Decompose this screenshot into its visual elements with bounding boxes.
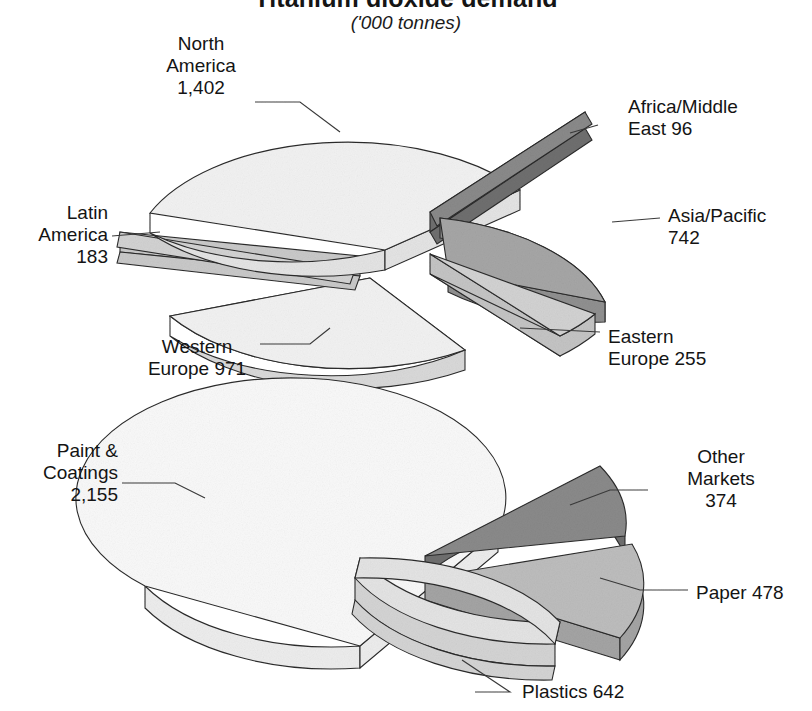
- label-western-europe: Western Europe 971: [132, 336, 262, 380]
- label-plastics: Plastics 642: [522, 681, 682, 703]
- leader-north-america: [255, 102, 340, 132]
- label-asia-pacific: Asia/Pacific 742: [668, 205, 808, 249]
- label-paper: Paper 478: [696, 582, 812, 604]
- chart-canvas: Titanium dioxide demand ('000 tonnes): [0, 0, 812, 711]
- label-africa-middle-east: Africa/Middle East 96: [628, 96, 808, 140]
- leader-asia-pacific: [612, 218, 660, 222]
- pie-end-use: [76, 378, 688, 692]
- label-other-markets: Other Markets 374: [656, 446, 786, 512]
- label-north-america: North America 1,402: [146, 33, 256, 99]
- label-paint-coatings: Paint & Coatings 2,155: [6, 440, 118, 506]
- label-latin-america: Latin America 183: [2, 202, 108, 268]
- label-eastern-europe: Eastern Europe 255: [608, 326, 768, 370]
